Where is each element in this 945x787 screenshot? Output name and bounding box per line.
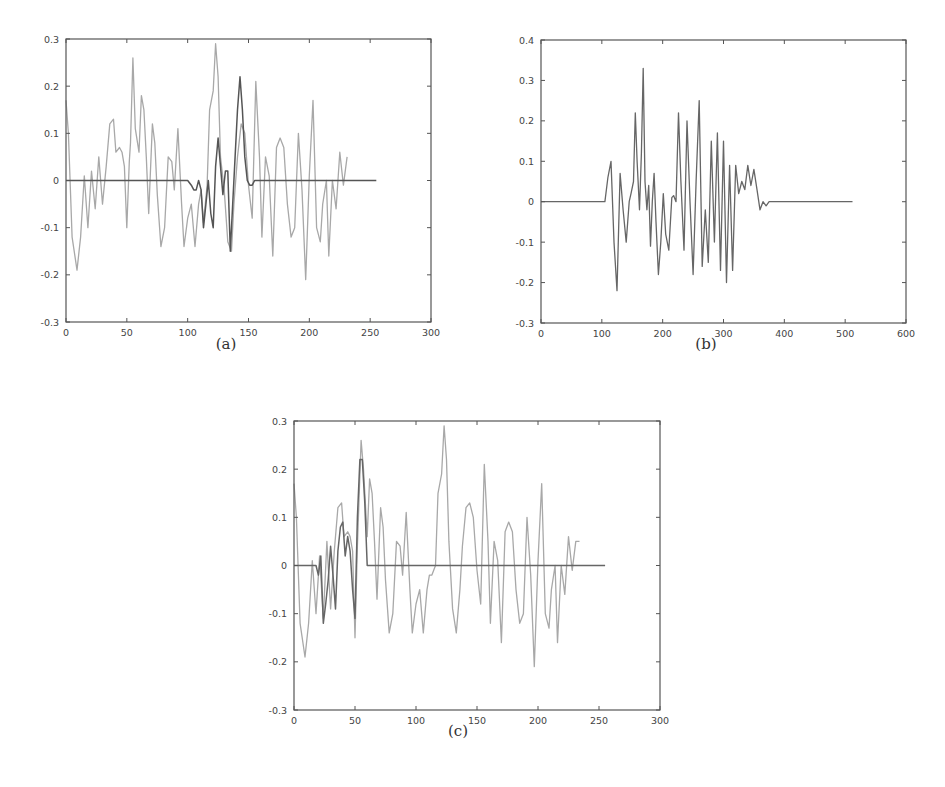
caption-c: (c) [448, 722, 468, 740]
y-tick-label: 0.3 [272, 416, 287, 427]
y-tick-label: 0 [281, 560, 287, 571]
y-tick-label: -0.2 [268, 656, 287, 667]
x-tick-label: 100 [407, 715, 425, 726]
x-tick-label: 150 [468, 715, 486, 726]
y-tick-label: 0.1 [272, 512, 287, 523]
x-tick-label: 300 [651, 715, 669, 726]
y-tick-label: -0.1 [268, 608, 287, 619]
chart-panel-c: 050100150200250300-0.3-0.2-0.100.10.20.3… [0, 0, 945, 787]
x-tick-label: 200 [529, 715, 547, 726]
series-line [294, 426, 580, 667]
chart-c-plot: 050100150200250300-0.3-0.2-0.100.10.20.3 [0, 0, 945, 787]
x-tick-label: 0 [291, 715, 297, 726]
y-tick-label: -0.3 [268, 705, 287, 716]
x-tick-label: 250 [590, 715, 608, 726]
y-tick-label: 0.2 [272, 464, 287, 475]
x-tick-label: 50 [349, 715, 361, 726]
